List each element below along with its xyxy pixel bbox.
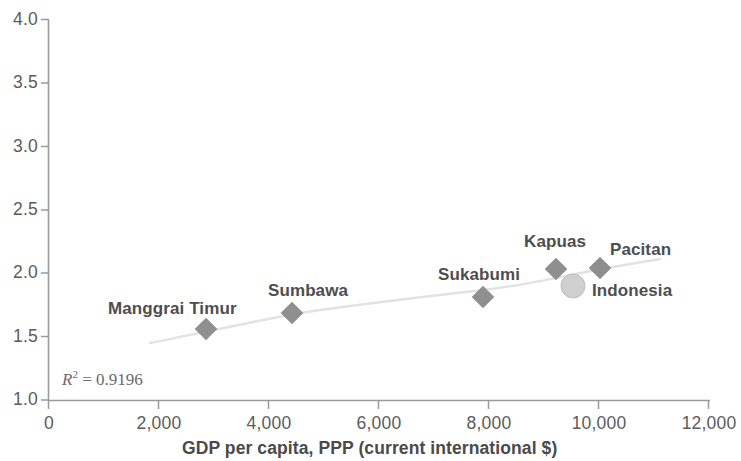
data-point-marker[interactable] xyxy=(195,318,218,341)
x-axis-title: GDP per capita, PPP (current internation… xyxy=(182,438,557,459)
point-label-pacitan: Pacitan xyxy=(610,240,671,260)
y-tick-label: 2.0 xyxy=(0,262,38,283)
x-axis-ticks xyxy=(49,400,709,409)
r-squared-symbol: R xyxy=(62,370,72,389)
y-tick-label: 3.5 xyxy=(0,72,38,93)
point-label-sukabumi: Sukabumi xyxy=(438,265,520,285)
data-point-marker[interactable] xyxy=(589,257,612,280)
data-point-marker-indonesia[interactable] xyxy=(561,274,585,298)
x-tick-label: 6,000 xyxy=(324,413,434,434)
r-squared-annotation: R2 = 0.9196 xyxy=(62,368,143,390)
point-label-kapuas: Kapuas xyxy=(524,232,586,252)
x-tick-label: 4,000 xyxy=(214,413,324,434)
y-tick-label: 1.5 xyxy=(0,326,38,347)
y-tick-label: 3.0 xyxy=(0,136,38,157)
x-tick-label: 2,000 xyxy=(104,413,214,434)
x-tick-label: 8,000 xyxy=(434,413,544,434)
x-tick-label: 12,000 xyxy=(654,413,741,434)
x-tick-label: 0 xyxy=(0,413,104,434)
data-point-marker[interactable] xyxy=(281,302,304,325)
point-label-manggrai-timur: Manggrai Timur xyxy=(108,299,237,319)
y-tick-label: 4.0 xyxy=(0,9,38,30)
r-squared-value: = 0.9196 xyxy=(78,370,143,389)
x-tick-label: 10,000 xyxy=(544,413,654,434)
point-label-sumbawa: Sumbawa xyxy=(268,281,348,301)
point-label-indonesia: Indonesia xyxy=(592,281,672,301)
y-axis-ticks xyxy=(41,20,48,401)
y-tick-label: 1.0 xyxy=(0,389,38,410)
y-tick-label: 2.5 xyxy=(0,199,38,220)
